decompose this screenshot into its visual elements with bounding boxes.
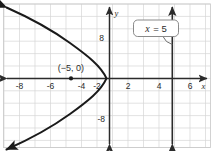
x-tick-label-minus4: -4	[78, 81, 86, 91]
point-label-minus5-0: (−5, 0)	[58, 63, 84, 73]
x-tick-label-4: 4	[157, 81, 162, 91]
graph-figure: -8 -6 -4 -2 2 4 6 8 -8 x y (−5, 0) x= 5	[0, 0, 214, 151]
y-tick-label-minus8: -8	[97, 114, 105, 124]
x-tick-label-2: 2	[126, 81, 131, 91]
y-tick-label-8: 8	[99, 33, 104, 43]
x-tick-label-minus8: -8	[16, 81, 24, 91]
callout-text: x= 5	[144, 23, 166, 34]
coordinate-plane-svg: -8 -6 -4 -2 2 4 6 8 -8 x y (−5, 0) x= 5	[0, 0, 214, 151]
x-tick-label-6: 6	[188, 81, 193, 91]
callout-equation: = 5	[153, 23, 166, 34]
x-tick-label-minus2: -2	[93, 81, 101, 91]
callout-variable: x	[144, 23, 150, 34]
x-axis-label: x	[201, 81, 206, 91]
x-tick-label-minus6: -6	[47, 81, 55, 91]
y-axis-label: y	[114, 8, 119, 18]
point-marker-minus5-0	[69, 76, 73, 80]
